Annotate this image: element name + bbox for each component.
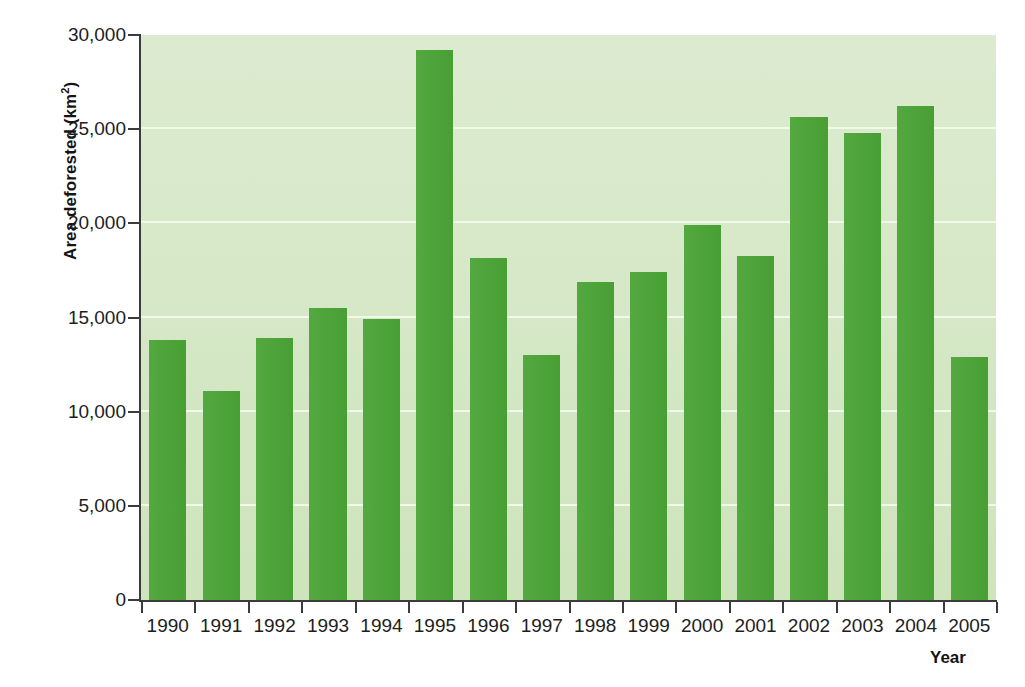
x-axis-tick-label: 2000 <box>681 615 723 637</box>
y-axis-tick-mark <box>128 599 140 601</box>
x-axis-tick-mark <box>248 602 250 613</box>
x-axis-tick-mark <box>301 602 303 613</box>
y-axis-tick-mark <box>128 317 140 319</box>
bar-2002 <box>790 117 827 600</box>
x-axis-tick-mark <box>515 602 517 613</box>
bar-1997 <box>523 355 560 600</box>
x-axis-tick-mark <box>408 602 410 613</box>
x-axis-tick-mark <box>194 602 196 613</box>
y-axis-tick-label: 0 <box>16 589 126 611</box>
y-axis-tick-mark <box>128 34 140 36</box>
x-axis-tick-mark <box>836 602 838 613</box>
x-axis-tick-label: 1995 <box>414 615 456 637</box>
bar-1994 <box>363 319 400 600</box>
y-axis-tick-label: 20,000 <box>16 212 126 234</box>
x-axis-tick-label: 1991 <box>200 615 242 637</box>
y-axis-tick-mark <box>128 411 140 413</box>
x-axis-tick-mark <box>943 602 945 613</box>
x-axis-tick-mark <box>569 602 571 613</box>
bar-2001 <box>737 256 774 600</box>
x-axis-tick-mark <box>355 602 357 613</box>
y-axis-tick-mark <box>128 128 140 130</box>
x-axis-tick-mark <box>141 602 143 613</box>
y-axis-tick-mark <box>128 505 140 507</box>
deforestation-bar-chart: Area deforested (km2) 05,00010,00015,000… <box>0 0 1025 687</box>
bar-1993 <box>309 308 346 600</box>
x-axis-tick-label: 1998 <box>574 615 616 637</box>
y-axis-tick-label: 30,000 <box>16 24 126 46</box>
bar-1992 <box>256 338 293 600</box>
gridline <box>141 127 996 129</box>
y-axis-tick-label: 10,000 <box>16 401 126 423</box>
y-axis-tick-label: 25,000 <box>16 118 126 140</box>
x-axis-tick-mark <box>889 602 891 613</box>
x-axis-tick-mark <box>996 602 998 613</box>
x-axis-tick-label: 1997 <box>521 615 563 637</box>
bar-1990 <box>149 340 186 600</box>
bar-1999 <box>630 272 667 600</box>
x-axis-tick-label: 1992 <box>253 615 295 637</box>
x-axis-tick-label: 1999 <box>628 615 670 637</box>
x-axis-tick-label: 1996 <box>467 615 509 637</box>
x-axis-title: Year <box>930 648 966 668</box>
x-axis-tick-label: 1994 <box>360 615 402 637</box>
x-axis-tick-label: 2005 <box>948 615 990 637</box>
bar-2000 <box>684 225 721 600</box>
y-axis-tick-label: 15,000 <box>16 307 126 329</box>
bar-1996 <box>470 258 507 600</box>
x-axis-tick-label: 2004 <box>895 615 937 637</box>
y-axis-tick-label: 5,000 <box>16 495 126 517</box>
bar-2005 <box>951 357 988 600</box>
x-axis-tick-label: 2001 <box>734 615 776 637</box>
x-axis-tick-label: 1993 <box>307 615 349 637</box>
plot-area <box>141 35 996 600</box>
bar-1991 <box>203 391 240 600</box>
x-axis-tick-mark <box>729 602 731 613</box>
x-axis-tick-label: 2003 <box>841 615 883 637</box>
bar-2003 <box>844 133 881 600</box>
bar-1995 <box>416 50 453 600</box>
bar-1998 <box>577 282 614 600</box>
bar-2004 <box>897 106 934 600</box>
x-axis-tick-mark <box>622 602 624 613</box>
y-axis-tick-mark <box>128 222 140 224</box>
x-axis-tick-mark <box>782 602 784 613</box>
x-axis-tick-label: 1990 <box>147 615 189 637</box>
x-axis-tick-label: 2002 <box>788 615 830 637</box>
x-axis-tick-mark <box>675 602 677 613</box>
y-axis-tick-labels: 05,00010,00015,00020,00025,00030,000 <box>8 0 126 687</box>
x-axis-tick-mark <box>462 602 464 613</box>
